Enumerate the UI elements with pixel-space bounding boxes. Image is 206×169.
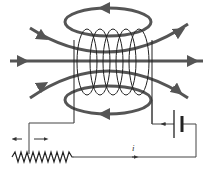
variable-resistor bbox=[12, 150, 74, 162]
battery-icon bbox=[174, 110, 182, 138]
current-label: i bbox=[132, 143, 135, 153]
solenoid-diagram bbox=[0, 0, 206, 169]
circuit-wires bbox=[29, 100, 196, 157]
field-line-top-loop bbox=[65, 8, 151, 36]
